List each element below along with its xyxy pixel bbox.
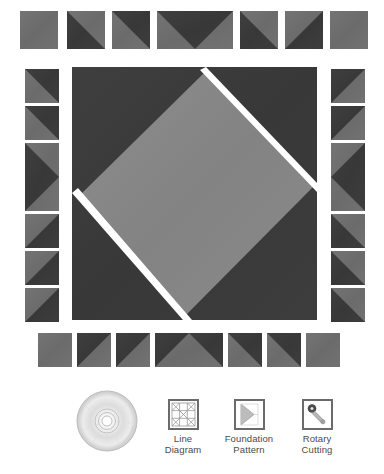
resource-icons: Line Diagram Foundation Pattern: [0, 386, 384, 474]
bottom-border-strip: [38, 333, 340, 367]
patch-t2: [67, 11, 105, 49]
rotary-cutting-item[interactable]: Rotary Cutting: [292, 399, 342, 455]
line-diagram-icon: [168, 399, 199, 430]
cd-disc-item[interactable]: [76, 390, 138, 452]
patch-t5: [240, 11, 278, 49]
patch-l6: [25, 288, 59, 322]
patch-l4: [25, 214, 59, 248]
patch-l1: [25, 69, 59, 103]
patch-b4: [155, 333, 223, 367]
center-square-on-point: [72, 67, 317, 320]
patch-t7: [330, 11, 368, 49]
patch-b6: [267, 333, 301, 367]
line-diagram-label: Line Diagram: [160, 433, 206, 455]
quilt-pattern-page: Line Diagram Foundation Pattern: [0, 0, 384, 474]
patch-t6: [285, 11, 323, 49]
rotary-cutting-label: Rotary Cutting: [292, 433, 342, 455]
foundation-pattern-icon: [234, 399, 265, 430]
patch-r6: [331, 288, 365, 322]
patch-b3: [116, 333, 150, 367]
line-diagram-label-line2: Diagram: [165, 444, 202, 455]
top-border-strip: [20, 11, 368, 49]
patch-t4: [157, 11, 233, 49]
patch-l5: [25, 251, 59, 285]
rotary-cutting-label-line2: Cutting: [302, 444, 333, 455]
patch-r2: [331, 106, 365, 140]
left-border-strip: [25, 69, 59, 322]
patch-r1: [331, 69, 365, 103]
patch-l3: [25, 143, 59, 211]
cd-disc-icon: [76, 390, 138, 452]
patch-l2: [25, 106, 59, 140]
line-diagram-item[interactable]: Line Diagram: [160, 399, 206, 455]
line-diagram-label-line1: Line: [174, 433, 192, 444]
rotary-cutter-icon: [302, 399, 333, 430]
foundation-pattern-label: Foundation Pattern: [220, 433, 278, 455]
right-border-strip: [331, 69, 365, 322]
foundation-pattern-label-line1: Foundation: [225, 433, 274, 444]
patch-t1: [20, 11, 58, 49]
foundation-pattern-label-line2: Pattern: [233, 444, 264, 455]
quilt-block-diagram: [0, 0, 384, 380]
quilt-svg: [0, 0, 384, 380]
patch-t3: [112, 11, 150, 49]
patch-r5: [331, 251, 365, 285]
foundation-pattern-item[interactable]: Foundation Pattern: [220, 399, 278, 455]
patch-b2: [77, 333, 111, 367]
patch-r3: [331, 143, 365, 211]
patch-b5: [228, 333, 262, 367]
patch-b7: [306, 333, 340, 367]
patch-r4: [331, 214, 365, 248]
patch-b1: [38, 333, 72, 367]
rotary-cutting-label-line1: Rotary: [303, 433, 332, 444]
